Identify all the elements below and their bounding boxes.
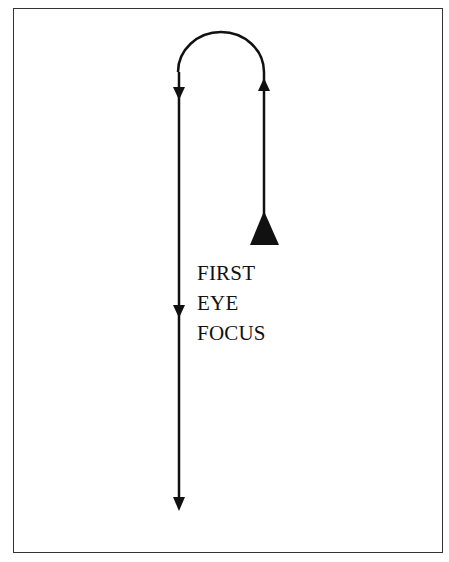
arrow-up-icon <box>258 78 270 91</box>
first-focus-triangle-icon <box>250 211 279 245</box>
arrow-down-icon <box>173 305 185 318</box>
arrow-down-icon <box>173 87 185 100</box>
label-line-1: FIRST <box>197 258 266 288</box>
top-arc <box>178 32 264 72</box>
first-eye-focus-label: FIRST EYE FOCUS <box>197 258 266 348</box>
label-line-2: EYE <box>197 288 266 318</box>
label-line-3: FOCUS <box>197 318 266 348</box>
arrow-down-icon <box>173 497 185 511</box>
